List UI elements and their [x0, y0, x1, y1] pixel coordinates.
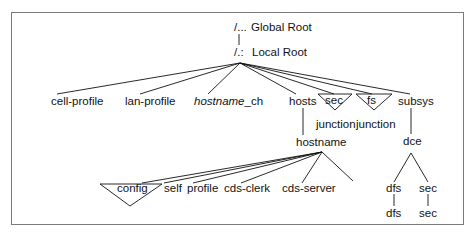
node-self: self — [164, 183, 182, 195]
local-root-label: Local Root — [252, 47, 307, 59]
node-fs-junction: fs — [367, 95, 376, 107]
node-lan-profile: lan-profile — [125, 96, 176, 108]
node-sec: sec — [419, 183, 437, 195]
node-hostname-ch-italic: hostname — [194, 95, 245, 107]
node-subsys: subsys — [398, 96, 434, 108]
node-config-junction: config — [117, 183, 148, 195]
node-dce: dce — [403, 136, 422, 148]
node-cell-profile: cell-profile — [51, 96, 103, 108]
fs-junction-sublabel: junction — [356, 119, 396, 131]
node-hostname-ch-suffix: _ch — [245, 95, 264, 107]
local-root-symbol: /.: — [234, 47, 244, 59]
node-hostname: hostname — [296, 137, 347, 149]
node-sec-junction: sec — [325, 95, 343, 107]
node-dfs-child: dfs — [386, 208, 401, 220]
node-cds-server: cds-server — [282, 183, 336, 195]
global-root-label: Global Root — [251, 22, 312, 34]
node-dfs: dfs — [386, 183, 401, 195]
node-hosts: hosts — [289, 96, 317, 108]
node-hostname-ch: hostname_ch — [194, 96, 263, 108]
node-sec-child: sec — [419, 208, 437, 220]
node-profile: profile — [187, 183, 218, 195]
sec-junction-sublabel: junction — [316, 119, 356, 131]
tree-connectors — [0, 0, 476, 238]
node-cds-clerk: cds-clerk — [224, 183, 270, 195]
global-root-symbol: /... — [234, 22, 247, 34]
